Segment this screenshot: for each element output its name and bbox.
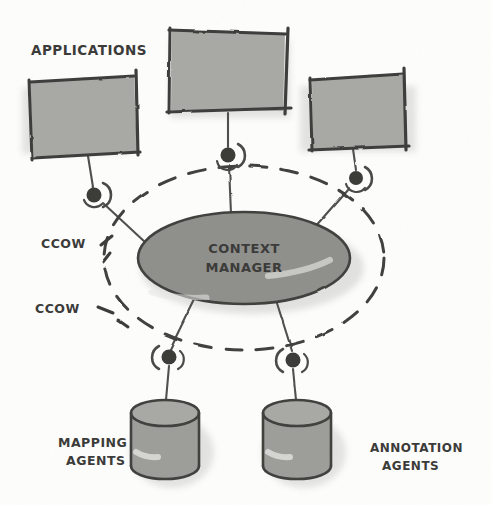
annotation-agents-label-line2: AGENTS [382,459,439,473]
application-box-center[interactable] [167,28,291,114]
ccow-connector-annotation[interactable] [276,349,308,372]
ccow-label-upper: CCOW [41,236,86,251]
ccow-pointer-arrows [98,236,128,327]
mapping-agents-label-line2: AGENTS [66,453,125,468]
ccow-connector-mapping[interactable] [152,346,184,369]
line-app-right-to-connector [353,149,356,170]
context-manager-line2: MANAGER [206,260,283,275]
application-box-right[interactable] [309,68,409,151]
diagram-canvas: CONTEXT MANAGER [0,0,491,505]
line-connector-mapping-to-cylinder [166,366,169,400]
line-connector-to-cm-center [229,165,231,214]
context-manager-ellipse[interactable]: CONTEXT MANAGER [138,212,350,304]
applications-label: APPLICATIONS [31,42,147,58]
context-manager-line1: CONTEXT [208,241,280,256]
ccow-connector-app-left[interactable] [84,183,111,207]
ccow-lower-arrow [98,307,113,313]
line-cm-to-connector-mapping [170,300,194,349]
annotation-agents-label-line1: ANNOTATION [370,441,463,455]
ccow-lower-arrow-2 [118,320,128,327]
mapping-agent-cylinder[interactable] [131,400,199,479]
annotation-agent-cylinder[interactable] [263,400,331,479]
application-box-left[interactable] [29,70,140,160]
ccow-label-lower: CCOW [35,301,80,316]
sketch-diagram: CONTEXT MANAGER [0,0,491,505]
line-connector-annotation-to-cylinder [293,369,296,400]
line-app-left-to-connector [88,156,93,187]
mapping-agents-label-line1: MAPPING [58,435,127,450]
